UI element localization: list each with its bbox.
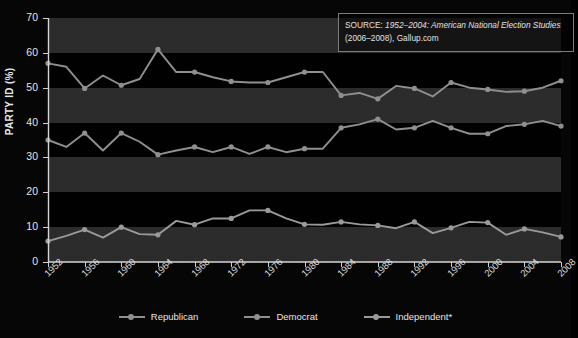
legend: RepublicanDemocratIndependent* xyxy=(0,311,571,322)
y-tick-mark xyxy=(43,192,48,193)
legend-dot xyxy=(254,314,260,320)
data-point xyxy=(229,216,234,221)
series-independent xyxy=(45,208,563,244)
legend-item-republican[interactable]: Republican xyxy=(119,311,199,322)
data-point xyxy=(265,144,270,149)
data-point xyxy=(412,125,417,130)
series-democrat xyxy=(45,47,563,102)
data-point xyxy=(375,96,380,101)
data-point xyxy=(265,80,270,85)
legend-label: Independent* xyxy=(396,311,453,322)
source-italic-2: Election Studies xyxy=(501,20,561,30)
data-point xyxy=(229,144,234,149)
legend-dot xyxy=(128,314,134,320)
data-point xyxy=(522,122,527,127)
data-point xyxy=(82,227,87,232)
data-point xyxy=(229,79,234,84)
x-tick-label: 1952 xyxy=(42,256,65,279)
data-point xyxy=(412,219,417,224)
data-point xyxy=(192,144,197,149)
data-point xyxy=(448,80,453,85)
y-tick-label: 60 xyxy=(8,46,38,58)
source-note: SOURCE: 1952–2004: American National Ele… xyxy=(338,13,574,52)
source-italic-1: 1952–2004: American National xyxy=(385,20,499,30)
legend-dot xyxy=(373,314,379,320)
data-point xyxy=(339,93,344,98)
data-point xyxy=(375,223,380,228)
y-tick-mark xyxy=(43,53,48,54)
data-point xyxy=(448,225,453,230)
data-point xyxy=(82,130,87,135)
legend-item-democrat[interactable]: Democrat xyxy=(244,311,317,322)
data-point xyxy=(339,125,344,130)
y-tick-mark xyxy=(43,157,48,158)
y-tick-mark xyxy=(43,18,48,19)
data-point xyxy=(119,130,124,135)
data-point xyxy=(339,219,344,224)
y-tick-label: 10 xyxy=(8,220,38,232)
legend-item-independent[interactable]: Independent* xyxy=(364,311,453,322)
legend-swatch xyxy=(244,312,270,321)
legend-swatch xyxy=(119,312,145,321)
data-point xyxy=(82,86,87,91)
data-point xyxy=(448,125,453,130)
data-point xyxy=(155,152,160,157)
y-tick-label: 50 xyxy=(8,81,38,93)
data-point xyxy=(375,116,380,121)
legend-label: Republican xyxy=(151,311,199,322)
data-point xyxy=(485,131,490,136)
plot-area xyxy=(48,18,561,262)
legend-swatch xyxy=(364,312,390,321)
y-tick-label: 30 xyxy=(8,150,38,162)
data-point xyxy=(485,87,490,92)
y-tick-label: 20 xyxy=(8,185,38,197)
y-tick-label: 40 xyxy=(8,116,38,128)
data-point xyxy=(558,234,563,239)
data-point xyxy=(522,89,527,94)
data-point xyxy=(119,83,124,88)
y-tick-label: 0 xyxy=(8,255,38,267)
data-point xyxy=(119,225,124,230)
data-point xyxy=(265,208,270,213)
data-point xyxy=(192,222,197,227)
y-tick-mark xyxy=(43,227,48,228)
legend-label: Democrat xyxy=(276,311,317,322)
y-tick-mark xyxy=(43,123,48,124)
source-prefix: SOURCE: xyxy=(345,20,385,30)
data-point xyxy=(485,220,490,225)
source-suffix: (2006–2008), Gallup.com xyxy=(345,33,439,43)
data-point xyxy=(558,78,563,83)
data-point xyxy=(192,69,197,74)
data-point xyxy=(412,86,417,91)
data-point xyxy=(155,232,160,237)
y-tick-mark xyxy=(43,88,48,89)
data-point xyxy=(302,69,307,74)
data-point xyxy=(522,226,527,231)
chart-lines-svg xyxy=(48,18,561,262)
data-point xyxy=(558,123,563,128)
y-tick-label: 70 xyxy=(8,11,38,23)
data-point xyxy=(302,222,307,227)
series-republican xyxy=(45,116,563,157)
data-point xyxy=(155,47,160,52)
data-point xyxy=(302,146,307,151)
